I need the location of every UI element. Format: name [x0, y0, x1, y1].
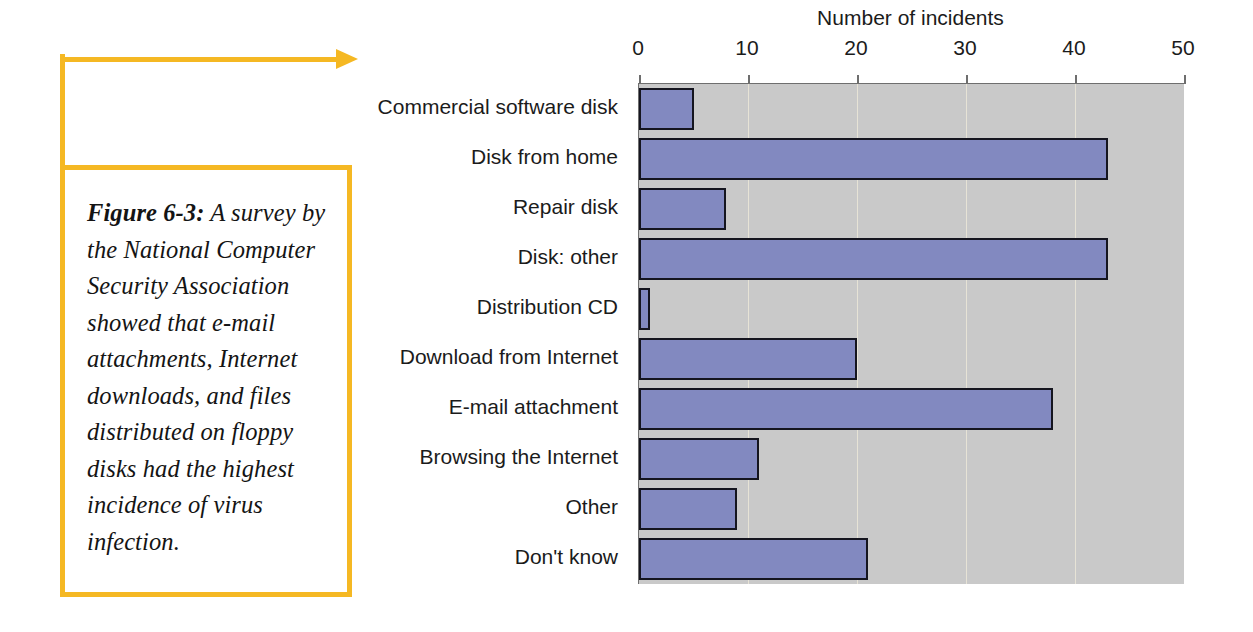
category-label: E-mail attachment [0, 395, 618, 419]
x-tick-mark-10 [748, 75, 750, 84]
category-label: Commercial software disk [0, 95, 618, 119]
bar [639, 288, 650, 330]
bar-row [639, 484, 1184, 534]
bar-row [639, 384, 1184, 434]
bar-row [639, 334, 1184, 384]
chart-title: Number of incidents [638, 6, 1183, 30]
x-tick-mark-0 [639, 75, 641, 84]
y-axis-category-labels: Commercial software diskDisk from homeRe… [0, 83, 628, 583]
category-label: Download from Internet [0, 345, 618, 369]
figure-page: Figure 6-3: A survey by the National Com… [0, 0, 1253, 632]
x-tick-label-30: 30 [953, 36, 976, 60]
x-tick-label-50: 50 [1171, 36, 1194, 60]
category-label: Disk from home [0, 145, 618, 169]
bar-chart: Number of incidents 01020304050 Commerci… [0, 0, 1253, 632]
category-label: Distribution CD [0, 295, 618, 319]
x-tick-mark-20 [857, 75, 859, 84]
category-label: Repair disk [0, 195, 618, 219]
x-tick-mark-40 [1075, 75, 1077, 84]
plot-area [638, 83, 1184, 584]
x-tick-mark-30 [966, 75, 968, 84]
bar [639, 238, 1108, 280]
bar-row [639, 284, 1184, 334]
bar [639, 438, 759, 480]
category-label: Other [0, 495, 618, 519]
bar [639, 88, 694, 130]
x-tick-mark-50 [1184, 75, 1186, 84]
x-tick-label-0: 0 [632, 36, 644, 60]
x-tick-label-10: 10 [735, 36, 758, 60]
bar-row [639, 84, 1184, 134]
category-label: Browsing the Internet [0, 445, 618, 469]
bar-row [639, 184, 1184, 234]
bar-row [639, 534, 1184, 584]
bar [639, 338, 857, 380]
category-label: Disk: other [0, 245, 618, 269]
category-label: Don't know [0, 545, 618, 569]
bar [639, 138, 1108, 180]
x-tick-label-20: 20 [844, 36, 867, 60]
bar [639, 188, 726, 230]
x-axis-tick-labels: 01020304050 [638, 36, 1183, 64]
bar-row [639, 134, 1184, 184]
bar [639, 388, 1053, 430]
bar [639, 488, 737, 530]
bar [639, 538, 868, 580]
bar-row [639, 234, 1184, 284]
bar-row [639, 434, 1184, 484]
x-tick-label-40: 40 [1062, 36, 1085, 60]
